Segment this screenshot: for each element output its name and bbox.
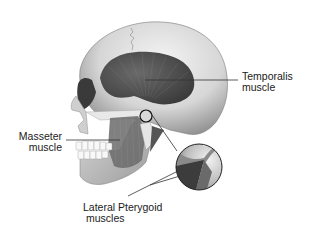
anatomy-figure: Temporalis muscle Masseter muscle Latera… bbox=[0, 0, 310, 236]
tmj-highlight-circle bbox=[140, 110, 152, 122]
masseter-label: Masseter muscle bbox=[14, 131, 62, 153]
temporalis-label: Temporalis muscle bbox=[242, 71, 293, 93]
temporalis-label-line2: muscle bbox=[242, 82, 293, 93]
teeth bbox=[76, 141, 112, 159]
lateral-pterygoid-label: Lateral Pterygoid muscles bbox=[83, 202, 162, 224]
lateral-pterygoid-label-line2: muscles bbox=[83, 213, 162, 224]
masseter-label-line2: muscle bbox=[14, 142, 62, 153]
magnified-inset bbox=[176, 144, 222, 192]
pterygoid-leader-line-1 bbox=[128, 170, 180, 196]
